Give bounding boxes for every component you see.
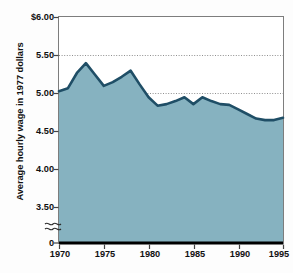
axis-break-squiggle-upper — [45, 223, 61, 225]
y-axis-ticks — [54, 18, 59, 244]
axis-break-squiggle-lower — [45, 228, 61, 230]
axis-break-icon — [44, 219, 62, 235]
chart-figure: Average hourly wage in 1977 dollars $6.0… — [0, 0, 293, 273]
x-axis-ticks — [60, 245, 284, 250]
